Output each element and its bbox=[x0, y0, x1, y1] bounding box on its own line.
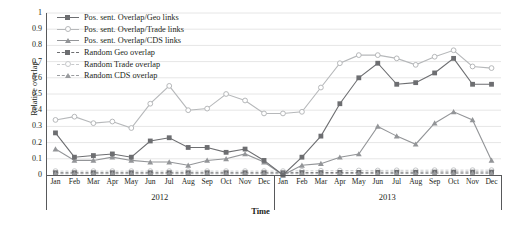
y-axis-line bbox=[46, 13, 47, 176]
year-label-2013: 2013 bbox=[327, 192, 447, 202]
legend-label: Random Geo overlap bbox=[84, 48, 155, 57]
data-point-marker bbox=[470, 117, 476, 122]
x-tick-jun-17: Jun bbox=[368, 177, 387, 186]
x-tick-aug-19: Aug bbox=[406, 177, 425, 186]
x-tick-dec-11: Dec bbox=[255, 177, 274, 186]
x-tick-dec-23: Dec bbox=[482, 177, 501, 186]
legend-item-4[interactable]: Random Trade overlap bbox=[57, 58, 184, 70]
x-tick-oct-21: Oct bbox=[444, 177, 463, 186]
data-point-marker bbox=[489, 82, 494, 87]
data-point-marker bbox=[243, 147, 248, 152]
data-point-marker bbox=[129, 126, 134, 131]
data-point-marker bbox=[91, 153, 96, 158]
data-point-marker bbox=[413, 62, 418, 67]
y-tick-0.2: 0.2 bbox=[2, 138, 42, 147]
data-point-marker bbox=[281, 111, 286, 116]
y-tick-0.3: 0.3 bbox=[2, 121, 42, 130]
data-point-marker bbox=[356, 75, 361, 80]
x-tick-apr-3: Apr bbox=[103, 177, 122, 186]
data-point-marker bbox=[451, 109, 457, 114]
y-tick-0.7: 0.7 bbox=[2, 57, 42, 66]
x-tick-nov-10: Nov bbox=[236, 177, 255, 186]
legend-swatch-icon bbox=[57, 70, 79, 81]
data-point-marker bbox=[470, 82, 475, 87]
data-point-marker bbox=[318, 134, 323, 139]
x-tick-feb-1: Feb bbox=[65, 177, 84, 186]
y-tick-1: 1 bbox=[2, 8, 42, 17]
legend-label: Pos. sent. Overlap/CDS links bbox=[84, 36, 181, 45]
data-point-marker bbox=[356, 53, 361, 58]
x-tick-jan-0: Jan bbox=[46, 177, 65, 186]
data-point-marker bbox=[375, 53, 380, 58]
data-point-marker bbox=[224, 92, 229, 97]
legend-label: Random CDS overlap bbox=[84, 71, 157, 80]
x-tick-mar-14: Mar bbox=[311, 177, 330, 186]
data-point-marker bbox=[451, 48, 456, 53]
data-point-marker bbox=[375, 61, 380, 66]
data-point-marker bbox=[186, 145, 191, 150]
data-point-marker bbox=[53, 146, 59, 151]
legend-item-0[interactable]: Pos. sent. Overlap/Geo links bbox=[57, 12, 184, 24]
legend-label: Pos. sent. Overlap/Geo links bbox=[84, 13, 179, 22]
x-tick-oct-9: Oct bbox=[217, 177, 236, 186]
x-tick-jun-5: Jun bbox=[141, 177, 160, 186]
data-point-marker bbox=[91, 121, 96, 126]
axis-end-tick-right bbox=[501, 176, 502, 210]
data-point-marker bbox=[262, 158, 267, 163]
data-point-marker bbox=[318, 85, 323, 90]
x-tick-mar-2: Mar bbox=[84, 177, 103, 186]
data-point-marker bbox=[167, 135, 172, 140]
data-point-marker bbox=[110, 119, 115, 124]
x-tick-aug-7: Aug bbox=[179, 177, 198, 186]
data-point-marker bbox=[72, 155, 77, 160]
year-group-labels: 20122013 bbox=[46, 192, 501, 206]
legend-item-5[interactable]: Random CDS overlap bbox=[57, 70, 184, 82]
data-point-marker bbox=[470, 64, 475, 69]
x-tick-jul-6: Jul bbox=[160, 177, 179, 186]
x-tick-nov-22: Nov bbox=[463, 177, 482, 186]
legend-swatch-icon bbox=[57, 47, 79, 58]
legend-item-3[interactable]: Random Geo overlap bbox=[57, 47, 184, 59]
data-point-marker bbox=[413, 80, 418, 85]
x-tick-jul-18: Jul bbox=[387, 177, 406, 186]
series-line bbox=[55, 170, 491, 171]
legend-label: Random Trade overlap bbox=[84, 60, 160, 69]
y-tick-0: 0 bbox=[2, 170, 42, 179]
y-tick-0.5: 0.5 bbox=[2, 89, 42, 98]
y-tick-0.6: 0.6 bbox=[2, 73, 42, 82]
y-tick-0.8: 0.8 bbox=[2, 40, 42, 49]
x-tick-may-16: May bbox=[349, 177, 368, 186]
data-point-marker bbox=[148, 139, 153, 144]
data-point-marker bbox=[300, 155, 305, 160]
year-label-2012: 2012 bbox=[100, 192, 220, 202]
data-point-marker bbox=[167, 84, 172, 89]
data-point-marker bbox=[205, 145, 210, 150]
data-point-marker bbox=[432, 54, 437, 59]
data-point-marker bbox=[148, 101, 153, 106]
data-point-marker bbox=[53, 130, 58, 135]
data-point-marker bbox=[243, 98, 248, 103]
legend-swatch-icon bbox=[57, 59, 79, 70]
legend-item-2[interactable]: Pos. sent. Overlap/CDS links bbox=[57, 35, 184, 47]
legend-swatch-icon bbox=[57, 12, 79, 23]
data-point-marker bbox=[394, 56, 399, 61]
data-point-marker bbox=[300, 109, 305, 114]
x-tick-sep-20: Sep bbox=[425, 177, 444, 186]
x-tick-jan-12: Jan bbox=[273, 177, 292, 186]
chart-legend: Pos. sent. Overlap/Geo linksPos. sent. O… bbox=[57, 12, 184, 82]
data-point-marker bbox=[489, 66, 494, 71]
axis-end-tick-left bbox=[46, 176, 47, 210]
data-point-marker bbox=[224, 150, 229, 155]
x-tick-apr-15: Apr bbox=[330, 177, 349, 186]
legend-item-1[interactable]: Pos. sent. Overlap/Trade links bbox=[57, 24, 184, 36]
data-point-marker bbox=[375, 124, 381, 129]
x-tick-sep-8: Sep bbox=[198, 177, 217, 186]
data-point-marker bbox=[337, 61, 342, 66]
data-point-marker bbox=[242, 151, 248, 156]
relative-overlap-line-chart: Relative overlap Time 00.10.20.30.40.50.… bbox=[0, 0, 521, 228]
x-tick-feb-13: Feb bbox=[292, 177, 311, 186]
data-point-marker bbox=[337, 101, 342, 106]
data-point-marker bbox=[262, 111, 267, 116]
legend-swatch-icon bbox=[57, 35, 79, 46]
year-separator bbox=[274, 176, 275, 210]
